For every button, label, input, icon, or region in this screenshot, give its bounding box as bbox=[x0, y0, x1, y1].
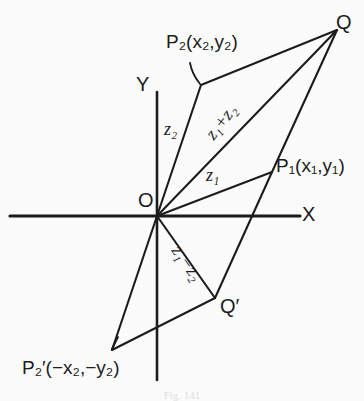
point-label-q: Q bbox=[336, 12, 352, 32]
figure-caption: Fig. 141 bbox=[0, 389, 364, 401]
vector-label-z2: z₂ bbox=[164, 120, 177, 138]
leader-line-p2 bbox=[190, 63, 200, 84]
x-axis-label: X bbox=[302, 204, 315, 224]
segment-o-p2 bbox=[157, 85, 201, 216]
point-label-qprime: Q′ bbox=[220, 296, 239, 316]
vector-label-z1: z₁ bbox=[206, 166, 219, 184]
point-label-p2: P₂(x₂,y₂) bbox=[166, 32, 238, 51]
origin-label: O bbox=[138, 190, 154, 210]
y-axis-label: Y bbox=[136, 74, 149, 94]
point-label-p2prime: P₂′(−x₂,−y₂) bbox=[22, 358, 120, 377]
point-label-p1: P₁(x₁,y₁) bbox=[276, 156, 345, 175]
segment-o-q bbox=[157, 30, 337, 216]
